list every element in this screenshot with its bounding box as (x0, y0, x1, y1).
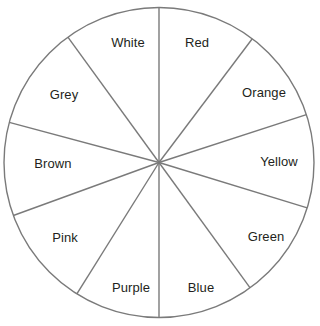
sector-label-red: Red (185, 36, 209, 50)
sector-label-white: White (111, 36, 145, 50)
spinner-wheel-figure: Red Orange Yellow Green Blue Purple Pink… (0, 0, 320, 326)
sector-label-brown: Brown (34, 157, 71, 171)
sector-label-pink: Pink (52, 231, 78, 245)
sector-label-purple: Purple (112, 281, 150, 295)
sector-label-orange: Orange (242, 86, 286, 100)
sector-label-green: Green (248, 230, 285, 244)
sector-label-yellow: Yellow (260, 155, 298, 169)
sector-label-grey: Grey (50, 88, 79, 102)
sector-label-blue: Blue (188, 281, 214, 295)
